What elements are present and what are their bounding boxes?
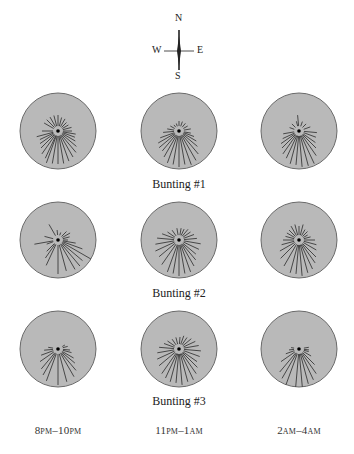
orientation-figure	[0, 0, 354, 454]
orientation-disk	[141, 93, 217, 169]
center-dot	[56, 238, 60, 242]
compass-north-label: N	[175, 12, 182, 23]
center-dot	[177, 238, 181, 242]
orientation-disk	[20, 202, 96, 278]
center-dot	[56, 129, 60, 133]
hop-streak	[179, 337, 180, 344]
center-dot	[297, 238, 301, 242]
center-dot	[177, 129, 181, 133]
orientation-disk	[20, 93, 96, 169]
center-dot	[297, 129, 301, 133]
time-label-2am-4am: 2AM–4AM	[277, 424, 321, 436]
orientation-disk	[261, 202, 337, 278]
compass-west-label: W	[152, 44, 161, 55]
orientation-disk	[141, 202, 217, 278]
center-dot	[177, 347, 181, 351]
center-dot	[297, 347, 301, 351]
compass-east-label: E	[197, 44, 203, 55]
caption-bunting-1: Bunting #1	[152, 177, 206, 192]
compass-south-label: S	[175, 70, 181, 81]
compass-star-icon	[177, 36, 181, 66]
hop-streak	[289, 349, 294, 350]
center-dot	[56, 347, 60, 351]
orientation-disk	[261, 311, 337, 387]
time-label-8pm-10pm: 8PM–10PM	[35, 424, 82, 436]
hop-streak	[291, 348, 294, 349]
compass-rose	[164, 30, 194, 70]
panel-grid	[20, 93, 337, 387]
orientation-disk	[261, 93, 337, 169]
hop-streak	[57, 230, 58, 235]
hop-streak	[304, 349, 309, 350]
caption-bunting-2: Bunting #2	[152, 286, 206, 301]
orientation-disk	[20, 311, 96, 387]
time-label-11pm-1am: 11PM–1AM	[155, 424, 203, 436]
orientation-disk	[141, 311, 217, 387]
caption-bunting-3: Bunting #3	[152, 394, 206, 409]
hop-streak	[63, 349, 70, 350]
